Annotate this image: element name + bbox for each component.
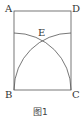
figure-caption: 图1 xyxy=(33,107,48,117)
arc-centered-b xyxy=(14,33,71,90)
label-c: C xyxy=(72,89,80,100)
label-d: D xyxy=(72,3,80,14)
label-e: E xyxy=(38,27,45,38)
arc-centered-c xyxy=(14,33,71,90)
label-b: B xyxy=(5,89,12,100)
label-a: A xyxy=(4,3,13,14)
geometry-figure: A D B C E 图1 xyxy=(0,0,83,120)
rectangle-abcd xyxy=(14,11,71,90)
